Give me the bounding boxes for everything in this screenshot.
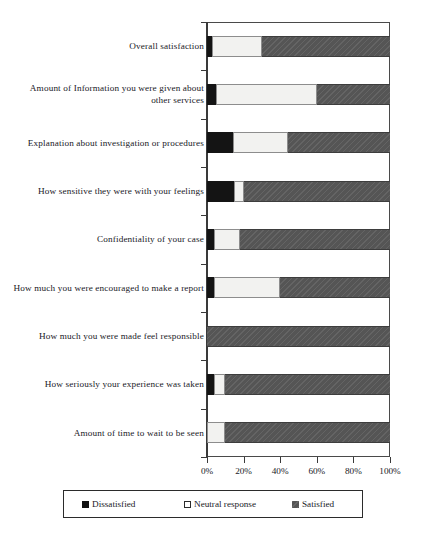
legend-item[interactable]: Dissatisfied — [82, 499, 135, 509]
y-axis-tick — [201, 167, 207, 168]
bar-segment-neutral-response — [214, 229, 240, 250]
chart-row: Amount of Information you were given abo… — [0, 70, 424, 118]
bar-segment-dissatisfied — [207, 277, 214, 298]
outlined-white-square-icon — [184, 501, 191, 508]
x-axis-tick — [244, 457, 245, 463]
legend-label: Neutral response — [194, 499, 256, 509]
category-label: Confidentiality of your case — [8, 233, 204, 246]
bar-segment-satisfied — [207, 326, 390, 347]
chart-row: Amount of time to wait to be seen — [0, 409, 424, 457]
bar-segment-neutral-response — [207, 422, 225, 443]
bar-segment-neutral-response — [216, 84, 317, 105]
category-label: Amount of Information you were given abo… — [8, 82, 204, 107]
bar-segment-dissatisfied — [207, 181, 234, 202]
chart-row: How much you were encouraged to make a r… — [0, 264, 424, 312]
stacked-bar — [207, 229, 390, 250]
y-axis-tick — [201, 22, 207, 23]
bar-segment-satisfied — [288, 132, 390, 153]
bar-segment-satisfied — [262, 36, 390, 57]
category-label: How sensitive they were with your feelin… — [8, 185, 204, 198]
category-label: Amount of time to wait to be seen — [8, 427, 204, 440]
bar-segment-satisfied — [240, 229, 390, 250]
legend-item[interactable]: Neutral response — [184, 499, 256, 509]
bar-segment-dissatisfied — [207, 132, 233, 153]
y-axis-tick — [201, 409, 207, 410]
bar-segment-neutral-response — [214, 277, 280, 298]
legend-label: Satisfied — [302, 499, 334, 509]
chart-row: Overall satisfaction — [0, 22, 424, 70]
chart-row: How seriously your experience was taken — [0, 360, 424, 408]
bar-segment-satisfied — [280, 277, 390, 298]
stacked-bar-chart: Overall satisfactionAmount of Informatio… — [0, 0, 424, 534]
category-label: Overall satisfaction — [8, 40, 204, 53]
y-axis-tick — [201, 264, 207, 265]
bar-segment-neutral-response — [233, 132, 288, 153]
chart-row: Explanation about investigation or proce… — [0, 119, 424, 167]
stacked-bar — [207, 422, 390, 443]
chart-rows: Overall satisfactionAmount of Informatio… — [0, 22, 424, 457]
chart-row: Confidentiality of your case — [0, 215, 424, 263]
bar-segment-satisfied — [225, 422, 390, 443]
legend-label: Dissatisfied — [92, 499, 135, 509]
filled-gray-square-icon — [292, 501, 299, 508]
chart-row: How much you were made feel responsible — [0, 312, 424, 360]
stacked-bar — [207, 36, 390, 57]
stacked-bar — [207, 326, 390, 347]
y-axis-tick — [201, 215, 207, 216]
chart-legend: DissatisfiedNeutral responseSatisfied — [63, 490, 363, 518]
x-axis-tick — [280, 457, 281, 463]
x-axis-tick — [353, 457, 354, 463]
x-axis-tick — [390, 457, 391, 463]
category-label: How much you were made feel responsible — [8, 330, 204, 343]
bar-segment-satisfied — [317, 84, 390, 105]
filled-black-square-icon — [82, 501, 89, 508]
stacked-bar — [207, 132, 390, 153]
y-axis-tick — [201, 119, 207, 120]
stacked-bar — [207, 277, 390, 298]
chart-row: How sensitive they were with your feelin… — [0, 167, 424, 215]
x-axis-tick — [317, 457, 318, 463]
bar-segment-satisfied — [244, 181, 390, 202]
bar-segment-dissatisfied — [207, 229, 214, 250]
stacked-bar — [207, 84, 390, 105]
y-axis-tick — [201, 70, 207, 71]
stacked-bar — [207, 374, 390, 395]
bar-segment-dissatisfied — [207, 374, 214, 395]
bar-segment-dissatisfied — [207, 84, 216, 105]
category-label: How much you were encouraged to make a r… — [8, 282, 204, 295]
y-axis-tick — [201, 360, 207, 361]
x-axis-tick-label: 100% — [369, 466, 411, 476]
category-label: Explanation about investigation or proce… — [8, 137, 204, 150]
legend-item[interactable]: Satisfied — [292, 499, 334, 509]
y-axis-tick — [201, 312, 207, 313]
bar-segment-neutral-response — [212, 36, 261, 57]
stacked-bar — [207, 181, 390, 202]
bar-segment-neutral-response — [214, 374, 225, 395]
bar-segment-neutral-response — [234, 181, 243, 202]
x-axis-tick — [207, 457, 208, 463]
category-label: How seriously your experience was taken — [8, 378, 204, 391]
bar-segment-satisfied — [225, 374, 390, 395]
